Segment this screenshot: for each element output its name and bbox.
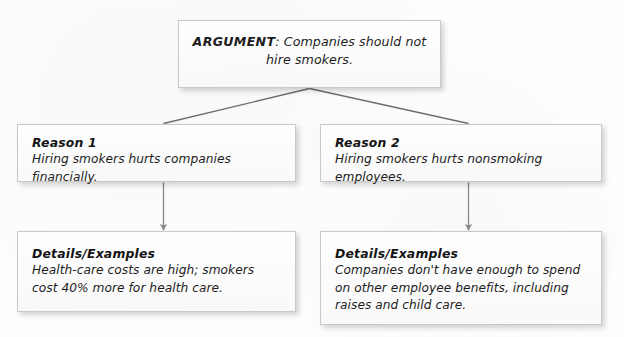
details-1-node: Details/Examples Health-care costs are h… <box>17 231 296 312</box>
details-2-node: Details/Examples Companies don't have en… <box>320 231 602 325</box>
details-1-body: Health-care costs are high; smokers cost… <box>32 262 283 297</box>
argument-to-reason-2-line <box>310 89 469 124</box>
reason-1-node: Reason 1 Hiring smokers hurts companies … <box>17 124 296 182</box>
argument-label: ARGUMENT <box>193 34 276 49</box>
argument-separator: : <box>275 34 279 49</box>
reason-1-heading: Reason 1 <box>32 134 283 151</box>
details-2-body: Companies don't have enough to spend on … <box>335 262 589 315</box>
reason-1-body: Hiring smokers hurts companies financial… <box>32 151 283 186</box>
reason-2-heading: Reason 2 <box>335 134 589 151</box>
argument-node: ARGUMENT: Companies should not hire smok… <box>178 20 441 88</box>
details-1-heading: Details/Examples <box>32 245 283 262</box>
details-2-heading: Details/Examples <box>335 245 589 262</box>
diagram-canvas: ARGUMENT: Companies should not hire smok… <box>0 0 624 337</box>
argument-to-reason-1-line <box>164 89 310 124</box>
argument-node-text: ARGUMENT: Companies should not hire smok… <box>192 33 428 69</box>
reason-2-body: Hiring smokers hurts nonsmoking employee… <box>335 151 589 186</box>
reason-2-node: Reason 2 Hiring smokers hurts nonsmoking… <box>320 124 602 182</box>
argument-claim-text: Companies should not hire smokers. <box>266 34 426 67</box>
